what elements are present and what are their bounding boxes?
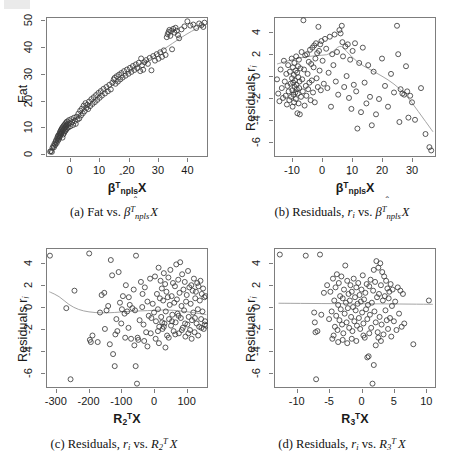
data-point [321, 290, 326, 295]
data-point [303, 253, 308, 258]
data-point [404, 64, 409, 69]
data-point [196, 333, 201, 338]
data-point [342, 311, 347, 316]
y-tick [269, 285, 273, 286]
data-point [155, 329, 160, 334]
data-point [332, 32, 337, 37]
panel-b: -100102030-6-4-2024Residuals riβ̂TnplsX [228, 0, 456, 231]
data-point [349, 314, 354, 319]
data-point [333, 79, 338, 84]
data-point [369, 325, 374, 330]
data-point [193, 289, 198, 294]
x-axis-title: β̂TnplsX [274, 180, 436, 196]
data-point [189, 336, 194, 341]
y-axis-title: Fat [16, 85, 30, 103]
data-point [351, 82, 356, 87]
data-point [159, 314, 164, 319]
data-point [127, 302, 132, 307]
data-point [393, 299, 398, 304]
data-point [182, 24, 187, 29]
data-point [386, 326, 391, 331]
data-point [188, 23, 193, 28]
data-point [286, 63, 291, 68]
data-point [141, 322, 146, 327]
data-point [152, 274, 157, 279]
data-point [327, 317, 332, 322]
panel-c: -300-200-1000100-6-4-2024Residuals riR2T… [0, 231, 228, 462]
data-point [294, 54, 299, 59]
data-point [106, 303, 111, 308]
data-point [325, 86, 330, 91]
data-point [423, 132, 428, 137]
y-tick [269, 76, 273, 77]
y-tick [269, 329, 273, 330]
data-point [394, 328, 399, 333]
data-point [126, 325, 131, 330]
data-point [156, 265, 161, 270]
data-point [131, 287, 136, 292]
x-axis-title: β̂TnplsX [46, 180, 208, 196]
x-tick [56, 389, 57, 393]
data-point [367, 331, 372, 336]
y-tick [269, 98, 273, 99]
data-point [304, 93, 309, 98]
y-tick [269, 120, 273, 121]
x-axis-title: R3TX [274, 411, 436, 427]
loess-smoother-line [49, 25, 205, 154]
caption-d-ri: ri [351, 437, 358, 451]
y-tick-label: 40 [21, 37, 35, 57]
data-point [138, 69, 143, 74]
data-point [368, 94, 373, 99]
data-point [166, 275, 171, 280]
data-point [395, 285, 400, 290]
data-point [334, 313, 339, 318]
data-point [398, 288, 403, 293]
data-point [312, 100, 317, 105]
data-point [164, 289, 169, 294]
data-point [345, 278, 350, 283]
data-point [341, 331, 346, 336]
x-tick [70, 158, 71, 162]
y-tick [41, 20, 45, 21]
x-tick-label: 30 [390, 164, 434, 176]
y-tick-label: 4 [249, 253, 263, 273]
data-point [201, 286, 206, 291]
data-point [182, 308, 187, 313]
x-tick [292, 158, 293, 162]
data-point [388, 282, 393, 287]
data-point [300, 89, 305, 94]
data-point [200, 309, 205, 314]
data-point [353, 308, 358, 313]
caption-b-math: β̂Tnpls [376, 204, 401, 221]
data-point [172, 300, 177, 305]
data-point [191, 276, 196, 281]
data-point [402, 321, 407, 326]
data-point [68, 377, 73, 382]
data-point [379, 322, 384, 327]
caption-panel-c: (c) Residuals, ri vs. R2TX [0, 436, 228, 453]
data-point [123, 283, 128, 288]
data-point [182, 279, 187, 284]
data-point [102, 326, 107, 331]
data-point [134, 381, 139, 386]
data-point [138, 279, 143, 284]
y-tick-label: 2 [249, 44, 263, 64]
data-point [312, 310, 317, 315]
data-point [314, 76, 319, 81]
data-point [354, 89, 359, 94]
data-point [126, 295, 131, 300]
data-point [319, 312, 324, 317]
data-point [321, 81, 326, 86]
y-tick [269, 142, 273, 143]
data-point [356, 281, 361, 286]
data-point [426, 298, 431, 303]
data-point [161, 271, 166, 276]
data-point [180, 272, 185, 277]
data-point [302, 103, 307, 108]
data-point [275, 77, 280, 82]
data-point [362, 80, 367, 85]
data-point [335, 50, 340, 55]
y-tick-label: 0 [21, 144, 35, 164]
loess-smoother-line [279, 303, 433, 304]
data-point [120, 294, 125, 299]
